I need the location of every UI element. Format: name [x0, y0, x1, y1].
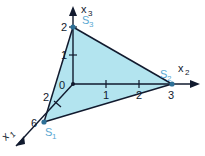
vertex-dot-s1 — [41, 119, 46, 124]
tick-label-x2-1: 1 — [103, 89, 109, 101]
tick-label-x3-1: 1 — [61, 49, 67, 61]
tick-label-x3-2: 2 — [61, 21, 67, 33]
origin-dot — [71, 82, 75, 86]
coordinate-diagram: x 3 x 2 x 1 0 1 2 3 1 2 2 6 S 3 S 2 S — [0, 0, 205, 156]
tick-label-x2-2: 2 — [136, 89, 142, 101]
axis-label-x2: x — [178, 62, 184, 74]
tick-label-x2-3: 3 — [168, 89, 174, 101]
vertex-label-s2-subscript: 2 — [167, 74, 172, 83]
figure-container: x 3 x 2 x 1 0 1 2 3 1 2 2 6 S 3 S 2 S — [0, 0, 205, 156]
tick-label-x1-6: 6 — [31, 117, 37, 129]
vertex-label-s3-subscript: 3 — [89, 20, 94, 29]
vertex-dot-s3 — [70, 24, 75, 29]
axis-label-x1-group: x 1 — [0, 126, 17, 145]
axis-label-x2-subscript: 2 — [185, 68, 190, 77]
axis-label-x2-group: x 2 — [178, 62, 190, 77]
tick-label-x1-2: 2 — [43, 91, 49, 103]
origin-label: 0 — [59, 79, 65, 91]
vertex-label-s1-subscript: 1 — [52, 132, 57, 141]
vertex-label-s1-group: S 1 — [45, 126, 57, 141]
intercept-triangle — [44, 27, 172, 122]
